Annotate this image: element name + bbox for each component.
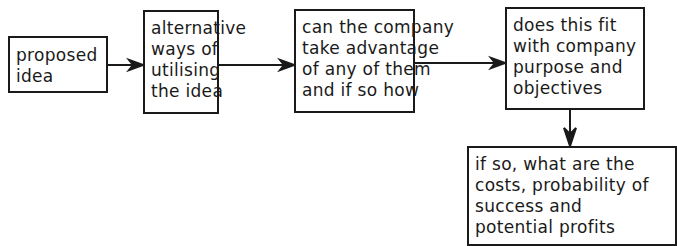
node-alternative-ways: alternative ways of utilising the idea (143, 10, 219, 114)
node-text: costs, probability of (475, 175, 669, 196)
node-text: proposed (16, 45, 100, 66)
node-proposed-idea: proposed idea (8, 36, 108, 93)
node-costs-profits: if so, what are the costs, probability o… (467, 146, 677, 246)
node-text: does this fit (513, 15, 637, 36)
node-text: if so, what are the (475, 154, 669, 175)
node-fit-purpose: does this fit with company purpose and o… (505, 7, 645, 110)
node-text: alternative (151, 18, 211, 39)
node-text: idea (16, 66, 100, 87)
node-text: of any of them (302, 59, 407, 80)
node-text: objectives (513, 78, 637, 99)
node-text: the idea (151, 81, 211, 102)
node-text: ways of (151, 39, 211, 60)
node-text: success and (475, 196, 669, 217)
node-text: can the company (302, 17, 407, 38)
node-text: utilising (151, 60, 211, 81)
node-text: take advantage (302, 38, 407, 59)
node-text: purpose and (513, 57, 637, 78)
node-text: potential profits (475, 217, 669, 238)
node-text: with company (513, 36, 637, 57)
node-text: and if so how (302, 80, 407, 101)
node-take-advantage: can the company take advantage of any of… (294, 9, 415, 113)
